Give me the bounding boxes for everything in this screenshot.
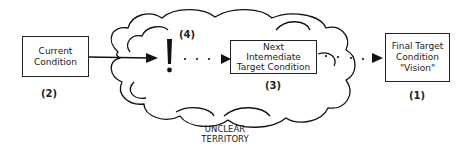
node-number-final: (1) (409, 90, 425, 101)
node-label-line: Final Target (392, 41, 443, 52)
node-label-line: Next (263, 43, 284, 52)
node-label-line: Target Condition (237, 62, 311, 72)
node-label-line: Condition (396, 52, 439, 63)
cloud-label-line: TERRITORY (195, 134, 255, 144)
node-current-condition: Current Condition (22, 36, 89, 77)
node-label-line: Condition (34, 57, 77, 68)
cloud-label-line: UNCLEAR (195, 124, 255, 134)
node-number-obstacle: (4) (179, 29, 195, 40)
node-label-line: Intemediate (246, 52, 301, 62)
cloud-label: UNCLEAR TERRITORY (195, 124, 255, 144)
node-label-line: "Vision" (400, 63, 435, 74)
node-number-current: (2) (41, 88, 57, 99)
node-next-target-condition: Next Intemediate Target Condition (230, 40, 317, 74)
node-label-line: Current (39, 46, 73, 57)
node-final-target-condition: Final Target Condition "Vision" (385, 33, 450, 82)
node-number-next: (3) (265, 80, 281, 91)
